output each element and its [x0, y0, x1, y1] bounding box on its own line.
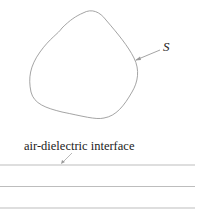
interface-label: air-dielectric interface	[24, 139, 135, 153]
diagram-canvas: S air-dielectric interface	[0, 0, 197, 210]
closed-surface-outline	[30, 11, 138, 119]
arrowhead-icon	[135, 57, 141, 61]
surface-label: S	[163, 39, 170, 54]
